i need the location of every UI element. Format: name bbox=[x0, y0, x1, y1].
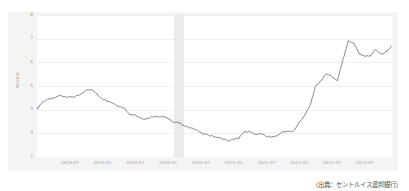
x-tick-label: 2021-07 bbox=[249, 161, 283, 165]
plot-area bbox=[37, 15, 392, 157]
series-polyline bbox=[37, 41, 392, 142]
x-tick-label: 2018-07 bbox=[53, 161, 87, 165]
x-tick-label: 2019-07 bbox=[118, 161, 152, 165]
x-tick-label: 2020-07 bbox=[184, 161, 218, 165]
x-tick-label: 2023-01 bbox=[348, 161, 382, 165]
x-tick-label: 2022-01 bbox=[282, 161, 316, 165]
series-line-chart bbox=[37, 15, 392, 157]
chart-figure: 8765432 2018-072019-012019-072020-012020… bbox=[0, 0, 409, 191]
x-tick-label: 2021-01 bbox=[217, 161, 251, 165]
source-note: （出典：セントルイス連邦銀行） bbox=[312, 182, 402, 188]
x-tick-label: 2019-01 bbox=[86, 161, 120, 165]
x-tick-label: 2020-01 bbox=[151, 161, 185, 165]
y-axis-label: Percent bbox=[16, 60, 20, 100]
x-tick-label: 2022-07 bbox=[315, 161, 349, 165]
